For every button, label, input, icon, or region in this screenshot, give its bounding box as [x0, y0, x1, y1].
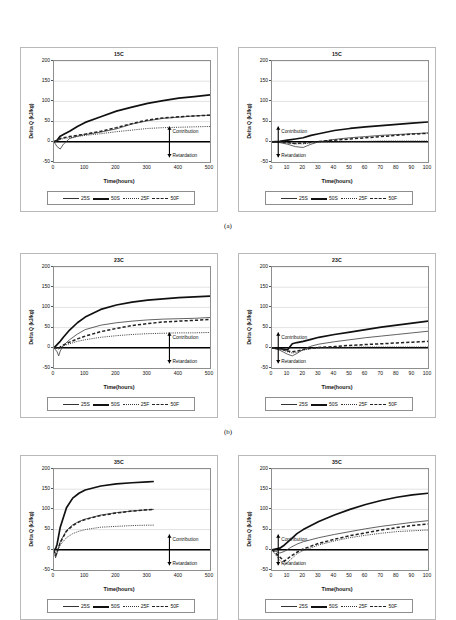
x-tick-label: 100 [418, 573, 436, 578]
contribution-annotation: Contribution [281, 129, 307, 134]
y-tick-mark [269, 529, 272, 530]
contribution-annotation: Contribution [172, 335, 198, 340]
y-tick-mark [269, 80, 272, 81]
y-tick-mark [269, 60, 272, 61]
y-tick-label: 0 [27, 344, 50, 349]
y-tick-label: 150 [27, 284, 50, 289]
y-tick-label: 0 [245, 546, 268, 551]
plot-area [271, 266, 429, 369]
x-tick-label: 300 [138, 573, 156, 578]
x-tick-label: 500 [200, 573, 218, 578]
series-line [54, 95, 210, 142]
legend-line-icon [123, 401, 139, 407]
chart-title: 35C [21, 459, 217, 465]
x-tick-label: 100 [418, 371, 436, 376]
x-tick-label: 400 [169, 165, 187, 170]
retardation-annotation: Retardation [172, 359, 197, 364]
chart-svg [54, 267, 210, 368]
legend-line-icon [311, 195, 327, 201]
x-tick-label: 500 [200, 371, 218, 376]
plot-area [53, 60, 211, 163]
y-tick-mark [51, 347, 54, 348]
subfigure-caption-a: (a) [0, 222, 456, 230]
y-tick-label: 100 [245, 304, 268, 309]
legend-item-50S: 50S [93, 603, 120, 609]
legend-label: 50S [111, 401, 120, 407]
y-tick-label: -50 [27, 365, 50, 370]
x-tick-label: 100 [75, 371, 93, 376]
legend-item-25F: 25F [123, 603, 150, 609]
legend-item-50S: 50S [93, 195, 120, 201]
legend-item-25S: 25S [63, 401, 90, 407]
y-tick-label: 100 [27, 506, 50, 511]
plot-area [271, 468, 429, 571]
legend-item-50F: 50F [152, 603, 179, 609]
y-tick-label: 50 [245, 526, 268, 531]
y-tick-mark [51, 549, 54, 550]
legend-item-50S: 50S [93, 401, 120, 407]
legend-label: 25F [359, 603, 368, 609]
legend-label: 50F [170, 603, 179, 609]
series-line [54, 509, 154, 555]
legend-line-icon [281, 603, 297, 609]
y-tick-mark [51, 468, 54, 469]
chart-svg [54, 469, 210, 570]
legend-label: 50F [170, 401, 179, 407]
retardation-annotation: Retardation [172, 561, 197, 566]
legend-item-25S: 25S [281, 195, 308, 201]
y-tick-mark [269, 306, 272, 307]
legend-line-icon [63, 401, 79, 407]
chart-title: 23C [21, 257, 217, 263]
legend-label: 50F [388, 603, 397, 609]
y-tick-label: 50 [27, 526, 50, 531]
y-tick-label: 0 [245, 138, 268, 143]
y-tick-mark [269, 508, 272, 509]
y-tick-mark [269, 286, 272, 287]
legend-line-icon [311, 603, 327, 609]
y-tick-mark [51, 161, 54, 162]
y-tick-label: 150 [245, 486, 268, 491]
y-tick-mark [51, 80, 54, 81]
legend-label: 50S [111, 195, 120, 201]
x-tick-label: 400 [169, 573, 187, 578]
y-tick-label: 100 [27, 304, 50, 309]
y-tick-mark [51, 60, 54, 61]
chart-panel-b-right: 23C Delta Q (kJ/kg) Time(hours) 25S50S25… [238, 253, 436, 418]
legend-label: 25S [299, 195, 308, 201]
y-tick-mark [269, 549, 272, 550]
contribution-annotation: Contribution [172, 129, 198, 134]
y-tick-mark [269, 266, 272, 267]
y-tick-mark [51, 488, 54, 489]
y-tick-mark [51, 508, 54, 509]
chart-legend: 25S50S25F50F [265, 599, 413, 613]
legend-line-icon [63, 195, 79, 201]
legend-item-50F: 50F [152, 195, 179, 201]
y-tick-label: 200 [245, 466, 268, 471]
legend-label: 50S [111, 603, 120, 609]
legend-label: 25S [81, 195, 90, 201]
x-tick-label: 0 [44, 371, 62, 376]
y-tick-mark [269, 327, 272, 328]
chart-title: 15C [21, 51, 217, 57]
x-tick-label: 0 [44, 573, 62, 578]
contribution-annotation: Contribution [281, 335, 307, 340]
y-tick-mark [269, 141, 272, 142]
y-tick-mark [269, 569, 272, 570]
y-tick-label: -50 [245, 365, 268, 370]
y-tick-label: 150 [245, 78, 268, 83]
legend-item-50S: 50S [311, 195, 338, 201]
legend-label: 50F [388, 195, 397, 201]
y-tick-mark [269, 488, 272, 489]
y-tick-label: 200 [27, 264, 50, 269]
y-tick-mark [269, 367, 272, 368]
y-tick-label: 200 [27, 58, 50, 63]
x-axis-label: Time(hours) [21, 586, 217, 592]
y-tick-mark [51, 529, 54, 530]
retardation-annotation: Retardation [281, 359, 306, 364]
chart-panel-a-left: 15C Delta Q (kJ/kg) Time(hours) 25S50S25… [20, 47, 218, 212]
y-tick-label: 50 [27, 118, 50, 123]
y-tick-label: 200 [27, 466, 50, 471]
chart-title: 35C [239, 459, 435, 465]
y-tick-label: 150 [27, 78, 50, 83]
chart-legend: 25S50S25F50F [47, 191, 195, 205]
